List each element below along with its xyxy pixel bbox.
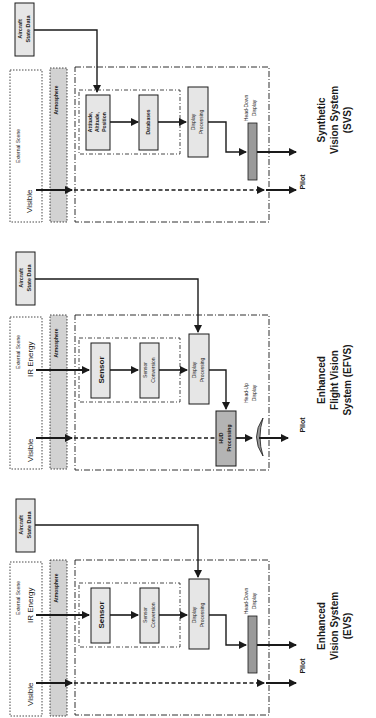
hud-processing-box: HUD Processing: [216, 411, 236, 466]
visible-label: Visible: [26, 438, 35, 462]
external-scene-box: External Scene IR Energy Visible: [10, 562, 42, 716]
aircraft-state-data-label-1: Aircraft: [18, 268, 24, 288]
panel-title-3: (SVS): [342, 107, 353, 134]
svs-panel: Aircraft State Data External Scene Visib…: [0, 0, 376, 240]
display-label-2: Display: [251, 99, 257, 116]
display-label-2: Display: [251, 384, 257, 401]
sensor-conversion-label-1: Sensor: [142, 362, 148, 378]
display-processing-box: Display Processing: [189, 579, 209, 649]
sensor-box: Sensor: [91, 343, 110, 398]
processing-label: Processing: [226, 425, 232, 452]
atmosphere-label: Atmosphere: [53, 328, 59, 357]
ir-energy-label: IR Energy: [26, 587, 35, 623]
panel-title-3: (EVS): [342, 613, 353, 640]
panel-title-1: Synthetic: [316, 97, 327, 142]
visible-label: Visible: [25, 189, 34, 213]
external-scene-label: External Scene: [15, 129, 21, 163]
sensor-conversion-box: Sensor Conversion: [140, 588, 159, 643]
atmosphere-strip: Atmosphere: [50, 315, 67, 469]
to-display-arrow: [209, 615, 246, 645]
aircraft-state-data-label-2: State Data: [26, 511, 32, 539]
sensor-box: Sensor: [91, 588, 110, 643]
panel-title-2: Flight Vision: [329, 350, 340, 410]
databases-box: Databases: [139, 95, 158, 150]
efvs-panel: Aircraft State Data External Scene IR En…: [0, 240, 376, 480]
visible-label: Visible: [26, 682, 35, 706]
aircraft-state-data-label-2: State Data: [25, 15, 31, 43]
evs-panel: Aircraft State Data External Scene IR En…: [0, 478, 376, 718]
atmosphere-strip: Atmosphere: [50, 68, 67, 222]
display-label: Display: [191, 361, 197, 378]
sensor-conversion-label-2: Conversion: [150, 357, 156, 383]
display-processing-box: Display Processing: [189, 334, 209, 404]
processing-label: Processing: [199, 357, 205, 382]
aircraft-state-data-box: Aircraft State Data: [16, 252, 35, 305]
sensor-label: Sensor: [97, 601, 106, 628]
external-scene-label: External Scene: [15, 335, 21, 369]
processing-label: Processing: [199, 602, 205, 627]
atmosphere-label: Atmosphere: [53, 85, 59, 114]
sensor-conversion-label-2: Conversion: [150, 602, 156, 628]
ir-energy-label: IR Energy: [26, 341, 35, 377]
display-label-1: Head-Down: [243, 95, 249, 122]
position-label: Position: [101, 112, 107, 132]
atmosphere-strip: Atmosphere: [50, 560, 67, 716]
display-label-1: Head-Up: [243, 383, 249, 403]
panel-title-2: Vision System: [329, 592, 340, 660]
head-up-display: Head-Up Display: [243, 383, 263, 456]
external-scene-label: External Scene: [15, 581, 21, 615]
hud-label: HUD: [218, 432, 224, 443]
attitude-altitude-position-box: Attitude, Altitude, Position: [86, 95, 110, 150]
display-label-2: Display: [251, 592, 257, 609]
aircraft-state-data-label-1: Aircraft: [18, 515, 24, 535]
display-label: Display: [191, 606, 197, 623]
databases-label: Databases: [145, 109, 151, 134]
panel-title-2: Vision System: [329, 86, 340, 154]
external-scene-box: External Scene Visible: [10, 70, 42, 222]
to-hud-processing-arrow: [209, 370, 226, 409]
to-display-arrow: [208, 122, 246, 152]
panel-title-1: Enhanced: [316, 356, 327, 404]
sensor-conversion-box: Sensor Conversion: [140, 343, 159, 398]
pilot-label: Pilot: [299, 658, 306, 674]
attitude-label: Attitude,: [87, 111, 93, 132]
display-processing-box: Display Processing: [188, 87, 208, 157]
head-down-display: Head-Down Display: [243, 588, 257, 673]
head-down-display: Head-Down Display: [243, 95, 257, 180]
sensor-conversion-label-1: Sensor: [142, 607, 148, 623]
pilot-label: Pilot: [299, 417, 306, 433]
aircraft-state-data-box: Aircraft State Data: [16, 499, 35, 552]
aircraft-state-data-label-1: Aircraft: [17, 19, 23, 39]
display-label: Display: [190, 113, 196, 130]
panel-title-1: Enhanced: [316, 602, 327, 650]
display-label-1: Head-Down: [243, 588, 249, 615]
sensor-label: Sensor: [97, 356, 106, 383]
altitude-label: Altitude,: [94, 111, 100, 132]
processing-label: Processing: [198, 109, 204, 134]
external-scene-box: External Scene IR Energy Visible: [10, 317, 42, 469]
aircraft-state-data-box: Aircraft State Data: [15, 3, 34, 56]
atmosphere-label: Atmosphere: [53, 573, 59, 602]
panel-title-3: System (EFVS): [342, 344, 353, 415]
pilot-label: Pilot: [299, 174, 306, 190]
aircraft-state-data-label-2: State Data: [26, 264, 32, 292]
